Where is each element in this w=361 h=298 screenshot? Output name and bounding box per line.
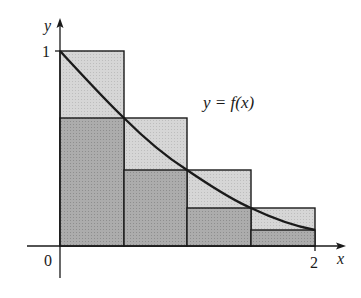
y-tick-label-1: 1	[42, 43, 50, 60]
riemann-sum-diagram: y 1 0 2 x y = f(x)	[0, 0, 361, 298]
origin-label: 0	[44, 252, 52, 269]
x-axis-label: x	[336, 250, 344, 267]
lower-rect-4	[251, 230, 315, 246]
y-axis-label: y	[42, 17, 52, 35]
x-tick-label-2: 2	[310, 254, 318, 271]
curve-label: y = f(x)	[201, 93, 254, 112]
lower-rect-3	[187, 208, 251, 246]
lower-rect-1	[60, 118, 124, 246]
lower-rect-2	[124, 170, 187, 246]
